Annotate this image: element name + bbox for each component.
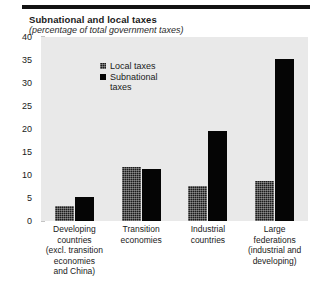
- legend-item-local: Local taxes: [100, 61, 158, 71]
- y-axis-tick-label: 25: [22, 101, 32, 111]
- bar-group: [41, 37, 108, 221]
- chart-subtitle: (percentage of total government taxes): [29, 25, 184, 35]
- legend-item-subnational: Subnational taxes: [100, 72, 158, 92]
- y-axis-tick-label: 30: [22, 78, 32, 88]
- y-axis-tick-label: 10: [22, 170, 32, 180]
- bar-subnational: [75, 197, 94, 221]
- plot-area: [41, 37, 308, 221]
- header-rule: [22, 5, 310, 9]
- y-axis-tick-label: 5: [27, 193, 32, 203]
- bars-container: [41, 37, 308, 221]
- x-axis-labels: Developingcountries(excl. transitionecon…: [41, 224, 308, 292]
- x-axis-category-label: Industrialcountries: [175, 224, 242, 245]
- chart-figure: Subnational and local taxes (percentage …: [0, 0, 321, 293]
- y-axis-tick-label: 40: [22, 32, 32, 42]
- bar-subnational: [275, 59, 294, 221]
- y-axis-tick-label: 20: [22, 124, 32, 134]
- legend-swatch-local-icon: [100, 63, 106, 69]
- bar-group: [175, 37, 242, 221]
- bar-subnational: [142, 169, 161, 221]
- x-axis-category-label: Transitioneconomies: [108, 224, 175, 245]
- y-axis-tick-label: 0: [27, 216, 32, 226]
- legend-label-subnational: Subnational taxes: [110, 72, 158, 92]
- y-axis-tick-label: 35: [22, 55, 32, 65]
- x-axis-category-label: Largefederations(industrial anddevelopin…: [241, 224, 308, 266]
- chart-title: Subnational and local taxes: [29, 14, 157, 25]
- x-axis-category-label: Developingcountries(excl. transitionecon…: [41, 224, 108, 277]
- bar-local: [55, 206, 74, 221]
- y-axis: 0510152025303540: [0, 37, 41, 221]
- legend-label-local: Local taxes: [110, 61, 156, 71]
- bar-subnational: [208, 131, 227, 221]
- bar-group: [241, 37, 308, 221]
- bar-local: [255, 181, 274, 221]
- legend-swatch-subnational-icon: [100, 74, 106, 80]
- chart-legend: Local taxes Subnational taxes: [100, 61, 158, 93]
- y-axis-tick-label: 15: [22, 147, 32, 157]
- bar-local: [188, 186, 207, 221]
- bar-local: [122, 167, 141, 221]
